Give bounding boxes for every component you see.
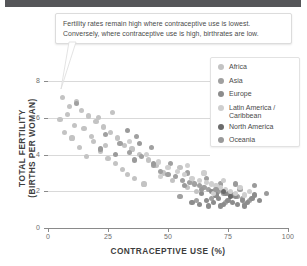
data-point [173,174,178,179]
data-point [137,141,142,146]
data-point [242,203,247,208]
annotation-callout: Fertility rates remain high where contra… [55,13,292,44]
data-point [228,194,233,199]
x-tick-label: 25 [96,233,120,240]
legend-swatch-icon [218,91,224,97]
gridline [48,155,210,156]
legend-swatch-icon [218,78,224,84]
data-point [189,176,194,181]
data-point [221,178,226,183]
data-point [96,115,101,120]
data-point [149,145,154,150]
legend-item-label: North America [229,123,273,132]
y-tick [44,81,48,82]
data-point [189,200,194,205]
data-point [141,181,146,186]
data-point [79,108,84,113]
y-tick [44,118,48,119]
data-point [115,135,120,140]
data-point [101,124,106,129]
data-point [84,154,89,159]
data-point [91,139,96,144]
data-point [233,181,238,186]
data-point [74,101,79,106]
data-point [62,130,67,135]
data-point [197,202,202,207]
x-tick-label: 0 [36,233,60,240]
data-point [108,130,113,135]
data-point [132,157,137,162]
data-point [185,163,190,168]
data-point [103,143,108,148]
legend-item-latin[interactable]: Latin America / Caribbean [218,104,275,121]
data-point [213,187,218,192]
x-tick-label: 100 [276,233,300,240]
x-axis-line [48,228,288,229]
data-point [127,139,132,144]
legend-item-africa[interactable]: Africa [218,63,247,72]
data-point [57,117,62,122]
data-point [117,141,122,146]
gridline [48,191,210,192]
legend-item-label: Latin America / Caribbean [229,104,275,121]
y-tick-label: 0 [26,224,40,231]
data-point [206,203,211,208]
data-point [134,134,139,139]
legend-item-label: Asia [229,77,243,86]
data-point [180,178,185,183]
data-point [197,178,202,183]
data-point [252,192,257,197]
data-point [122,143,127,148]
legend-swatch-icon [218,137,224,143]
legend-swatch-icon [218,124,224,130]
data-point [144,152,149,157]
data-point [125,128,130,133]
data-point [72,123,77,128]
data-point [120,167,125,172]
y-tick [44,191,48,192]
y-tick [44,155,48,156]
legend-item-oceania[interactable]: Oceania [218,136,255,145]
data-point [204,198,209,203]
data-point [233,191,238,196]
data-point [165,172,170,177]
chart-root: 024680255075100 CONTRACEPTIVE USE (%) TO… [0,0,307,266]
x-axis-title: CONTRACEPTIVE USE (%) [48,246,288,256]
annotation-line-1: Fertility rates remain high where contra… [63,20,250,27]
data-point [201,170,206,175]
legend-item-asia[interactable]: Asia [218,77,243,86]
y-axis-title: TOTAL FERTILITY(BIRTHS PER WOMAN) [17,73,37,223]
legend-item-label: Europe [229,90,252,99]
legend-item-label: Africa [229,63,247,72]
data-point [86,113,91,118]
annotation-line-2: Conversely, where contraceptive use is h… [63,30,259,37]
data-point [237,185,242,190]
data-point [113,161,118,166]
data-point [89,134,94,139]
data-point [65,112,70,117]
data-point [218,203,223,208]
data-point [125,172,130,177]
data-point [165,165,170,170]
data-point [247,189,252,194]
data-point [81,126,86,131]
data-point [257,198,262,203]
legend: AfricaAsiaEuropeLatin America / Caribbea… [210,57,300,147]
legend-item-europe[interactable]: Europe [218,90,252,99]
data-point [182,172,187,177]
data-point [235,202,240,207]
data-point [110,110,115,115]
gridline [48,118,210,119]
data-point [60,95,65,100]
data-point [103,132,108,137]
data-point [264,191,269,196]
legend-item-north[interactable]: North America [218,123,273,132]
legend-swatch-icon [218,105,224,111]
data-point [177,194,182,199]
legend-item-label: Oceania [229,136,255,145]
x-tick-label: 75 [216,233,240,240]
data-point [242,192,247,197]
x-tick-label: 50 [156,233,180,240]
data-point [77,145,82,150]
data-point [221,189,226,194]
